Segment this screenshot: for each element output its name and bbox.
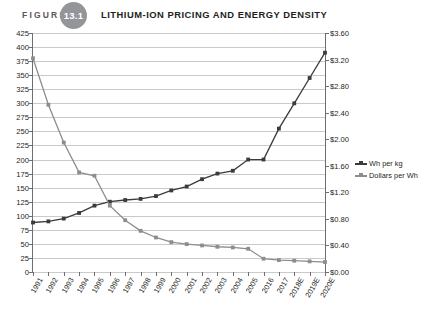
series-marker [123, 198, 127, 202]
series-marker [123, 218, 127, 222]
left-axis-tick-label: 0 [25, 268, 29, 277]
right-axis-tick-label: $1.60 [330, 161, 349, 170]
series-marker [46, 103, 50, 107]
left-axis-tick-label: 25 [21, 253, 29, 262]
figure-title: LITHIUM-ION PRICING AND ENERGY DENSITY [101, 9, 327, 20]
right-axis-tick-label: $2.40 [330, 108, 349, 117]
left-axis-tick-label: 50 [21, 239, 29, 248]
figure-container: FIGURE 13.1 LITHIUM-ION PRICING AND ENER… [0, 0, 433, 320]
series-marker [185, 242, 189, 246]
series-marker [31, 56, 35, 60]
series-marker [46, 219, 50, 223]
series-marker [246, 247, 250, 251]
series-marker [169, 240, 173, 244]
legend-marker-icon [359, 173, 363, 177]
right-axis-line [325, 33, 326, 273]
series-marker [139, 197, 143, 201]
series-marker [154, 236, 158, 240]
legend-label: Dollars per Wh [369, 171, 418, 180]
legend-label: Wh per kg [369, 159, 403, 168]
left-axis-tick-label: 300 [16, 99, 29, 108]
series-marker [93, 204, 97, 208]
figure-number-label: 13.1 [60, 2, 87, 29]
series-marker [108, 204, 112, 208]
right-axis-tick-label: $2.80 [330, 82, 349, 91]
series-marker [93, 174, 97, 178]
right-axis-tickmark [325, 113, 329, 114]
left-axis-tick-label: 175 [16, 169, 29, 178]
series-line [33, 58, 325, 262]
right-axis-tick-label: $0.40 [330, 241, 349, 250]
right-axis-tickmark [325, 166, 329, 167]
right-axis-tickmark [325, 33, 329, 34]
left-axis-tick-label: 275 [16, 113, 29, 122]
series-marker [277, 258, 281, 262]
series-marker [200, 177, 204, 181]
right-axis-tickmark [325, 219, 329, 220]
left-axis-tick-label: 125 [16, 197, 29, 206]
figure-number-badge: 13.1 [60, 2, 87, 29]
left-axis-tick-label: 225 [16, 141, 29, 150]
left-axis-tick-label: 325 [16, 85, 29, 94]
x-axis-tickmark [325, 272, 326, 276]
series-marker [62, 141, 66, 145]
plot-area: 4254003753503253002752502252001751501251… [33, 33, 325, 272]
series-marker [77, 171, 81, 175]
series-marker [185, 185, 189, 189]
series-marker [308, 76, 312, 80]
series-marker [154, 194, 158, 198]
left-axis-tick-label: 250 [16, 127, 29, 136]
legend-marker-icon [359, 161, 363, 165]
series-marker [246, 158, 250, 162]
left-axis-tick-label: 375 [16, 57, 29, 66]
right-axis-tickmark [325, 86, 329, 87]
series-marker [139, 229, 143, 233]
right-axis-tickmark [325, 192, 329, 193]
series-marker [292, 101, 296, 105]
left-axis-tick-label: 100 [16, 211, 29, 220]
left-axis-tick-label: 425 [16, 29, 29, 38]
series-marker [323, 260, 327, 264]
right-axis-tick-label: $0.80 [330, 214, 349, 223]
left-axis-tick-label: 350 [16, 71, 29, 80]
series-marker [292, 259, 296, 263]
series-marker [262, 158, 266, 162]
figure-header: FIGURE 13.1 LITHIUM-ION PRICING AND ENER… [0, 0, 433, 30]
series-marker [77, 211, 81, 215]
series-lines [33, 33, 325, 273]
right-axis-tick-label: $3.60 [330, 29, 349, 38]
left-axis-tick-label: 200 [16, 155, 29, 164]
series-marker [169, 189, 173, 193]
series-marker [231, 246, 235, 250]
left-axis-tick-label: 150 [16, 183, 29, 192]
series-marker [277, 127, 281, 131]
right-axis-tickmark [325, 245, 329, 246]
series-marker [231, 169, 235, 173]
series-marker [216, 172, 220, 176]
left-axis-tick-label: 400 [16, 43, 29, 52]
right-axis-tickmark [325, 139, 329, 140]
series-marker [31, 221, 35, 225]
right-axis-tick-label: $3.20 [330, 55, 349, 64]
series-marker [323, 51, 327, 55]
series-line [33, 53, 325, 223]
right-axis-tickmark [325, 60, 329, 61]
series-marker [308, 259, 312, 263]
right-axis-tick-label: $2.00 [330, 135, 349, 144]
series-marker [216, 245, 220, 249]
series-marker [200, 244, 204, 248]
left-axis-tick-label: 75 [21, 225, 29, 234]
series-marker [262, 257, 266, 261]
right-axis-tick-label: $1.20 [330, 188, 349, 197]
series-marker [62, 217, 66, 221]
